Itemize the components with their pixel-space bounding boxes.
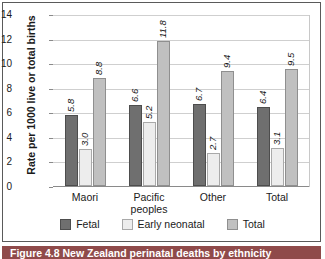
bar-value-label: 11.8 <box>157 20 168 38</box>
bar-value-label: 6.6 <box>129 89 140 102</box>
legend-swatch-icon <box>60 219 71 230</box>
legend-label: Fetal <box>76 218 99 230</box>
bar[interactable] <box>143 122 156 186</box>
bar[interactable] <box>257 107 270 186</box>
bar-group: 6.43.19.5 <box>257 14 298 186</box>
y-axis-tick-label: 12 <box>0 34 12 45</box>
legend-item[interactable]: Total <box>227 218 265 230</box>
bar-value-label: 6.4 <box>257 91 268 104</box>
y-axis-tick-label: 2 <box>0 156 12 167</box>
bar[interactable] <box>285 69 298 186</box>
legend-label: Total <box>243 218 265 230</box>
x-axis-category-label: Maori <box>48 192 122 204</box>
legend-label: Early neonatal <box>138 218 205 230</box>
x-axis-category-label-line: Other <box>176 192 250 204</box>
y-axis-title: Rate per 1000 live or total births <box>25 5 37 185</box>
legend-item[interactable]: Fetal <box>60 218 99 230</box>
chart-legend: FetalEarly neonatalTotal <box>3 218 322 230</box>
legend-swatch-icon <box>227 219 238 230</box>
y-axis-tick-label: 0 <box>0 181 12 192</box>
bar-value-label: 9.5 <box>285 53 296 66</box>
figure-container: Rate per 1000 live or total births 02468… <box>0 0 325 259</box>
bar[interactable] <box>129 105 142 186</box>
x-axis-line <box>53 186 309 187</box>
y-axis-tick-mark <box>49 187 53 188</box>
x-axis-category-label-line: Total <box>240 192 314 204</box>
bar-value-label: 6.7 <box>193 87 204 100</box>
bar-group: 5.83.08.8 <box>65 14 106 186</box>
bar-value-label: 3.1 <box>271 132 282 145</box>
x-axis-category-label: Total <box>240 192 314 204</box>
x-axis-category-label-line: peoples <box>112 204 186 216</box>
y-axis-tick-label: 8 <box>0 83 12 94</box>
bar[interactable] <box>193 104 206 186</box>
bar[interactable] <box>65 115 78 186</box>
legend-item[interactable]: Early neonatal <box>122 218 205 230</box>
bar[interactable] <box>221 71 234 186</box>
bar[interactable] <box>157 41 170 186</box>
y-axis-tick-label: 10 <box>0 58 12 69</box>
y-axis-tick-label: 6 <box>0 107 12 118</box>
x-axis-category-label: Pacificpeoples <box>112 192 186 215</box>
figure-caption: Figure 4.8 New Zealand perinatal deaths … <box>10 247 271 259</box>
bar-value-label: 3.0 <box>79 133 90 146</box>
x-axis-category-label: Other <box>176 192 250 204</box>
chart-frame: Rate per 1000 live or total births 02468… <box>2 2 321 242</box>
bar-value-label: 9.4 <box>221 54 232 67</box>
bar-value-label: 2.7 <box>207 137 218 150</box>
x-axis-category-label-line: Pacific <box>112 192 186 204</box>
y-axis-tick-label: 14 <box>0 9 12 20</box>
plot-right-border <box>309 15 310 187</box>
bar-value-label: 5.2 <box>143 106 154 119</box>
x-axis-category-label-line: Maori <box>48 192 122 204</box>
y-axis-tick-label: 4 <box>0 132 12 143</box>
figure-caption-band: Figure 4.8 New Zealand perinatal deaths … <box>2 246 321 259</box>
bar[interactable] <box>271 148 284 186</box>
bar[interactable] <box>79 149 92 186</box>
bar-group: 6.65.211.8 <box>129 14 170 186</box>
bar[interactable] <box>93 78 106 186</box>
bar-value-label: 5.8 <box>65 99 76 112</box>
bar-value-label: 8.8 <box>93 62 104 75</box>
bar[interactable] <box>207 153 220 186</box>
plot-area: 5.83.08.86.65.211.86.72.79.46.43.19.5 <box>53 15 309 187</box>
legend-swatch-icon <box>122 219 133 230</box>
bar-group: 6.72.79.4 <box>193 14 234 186</box>
